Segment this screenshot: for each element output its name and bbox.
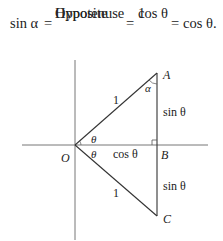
- right-angle-marker: [152, 140, 157, 145]
- theta-upper-label: θ: [91, 133, 97, 145]
- side-sin-upper-label: sin θ: [163, 105, 186, 119]
- theta-arc-upper: [80, 141, 82, 145]
- point-O-label: O: [61, 151, 70, 165]
- point-A-label: A: [162, 68, 171, 82]
- alpha-label: α: [145, 82, 151, 94]
- adjacent-cos-label: cos θ: [113, 147, 138, 161]
- point-C-label: C: [163, 212, 172, 226]
- triangle-diagram: A B C O 1 1 α θ θ cos θ sin θ sin θ: [0, 0, 223, 241]
- hypotenuse-upper-label: 1: [113, 93, 119, 107]
- theta-lower-label: θ: [91, 148, 97, 160]
- hypotenuse-lower-label: 1: [113, 186, 119, 200]
- side-sin-lower-label: sin θ: [163, 179, 186, 193]
- point-B-label: B: [161, 148, 169, 162]
